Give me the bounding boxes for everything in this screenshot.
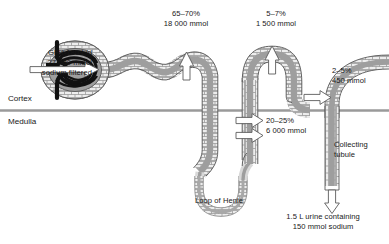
- loop-percent: 20–25%: [266, 116, 328, 126]
- distal-amount: 1 500 mmol: [232, 19, 320, 29]
- collecting-tubule-line-1: Collecting: [334, 140, 388, 150]
- collecting-tubule-label: Collecting tubule: [334, 140, 388, 159]
- urine-output-label: 1.5 L urine containing 150 mmol sodium: [258, 212, 388, 231]
- gfr-line-1: GFR 180 L/d: [8, 48, 92, 58]
- proximal-amount: 18 000 mmol: [140, 19, 232, 29]
- urine-line-2: 150 mmol sodium: [258, 222, 388, 232]
- collecting-percent: 2–5%: [332, 66, 388, 76]
- proximal-percent: 65–70%: [140, 9, 232, 19]
- collecting-tubule-line-2: tubule: [334, 150, 388, 160]
- proximal-reabsorption-label: 65–70% 18 000 mmol: [140, 9, 232, 28]
- loop-of-henle-ascending-limb: [242, 78, 258, 180]
- gfr-line-3: sodium filtered: [8, 68, 92, 78]
- medulla-zone-label: Medulla: [8, 117, 36, 126]
- urine-output-arrow: [325, 190, 340, 214]
- diagram-canvas: GFR 180 L/d 27 000 mmol sodium filtered …: [0, 0, 389, 244]
- urine-line-1: 1.5 L urine containing: [258, 212, 388, 222]
- loop-amount: 6 000 mmol: [266, 126, 328, 136]
- loop-reabsorption-label: 20–25% 6 000 mmol: [266, 116, 328, 135]
- distal-percent: 5–7%: [232, 9, 320, 19]
- gfr-line-2: 27 000 mmol: [8, 58, 92, 68]
- loop-of-henle-label: Loop of Henle: [176, 196, 262, 206]
- cortex-zone-label: Cortex: [8, 94, 32, 103]
- collecting-reabsorption-label: 2–5% 450 mmol: [332, 66, 388, 85]
- nephron-illustration: [0, 0, 389, 244]
- proximal-convoluted-tubule: [104, 52, 218, 176]
- collecting-amount: 450 mmol: [332, 76, 388, 86]
- distal-reabsorption-label: 5–7% 1 500 mmol: [232, 9, 320, 28]
- gfr-input-label: GFR 180 L/d 27 000 mmol sodium filtered: [8, 48, 92, 79]
